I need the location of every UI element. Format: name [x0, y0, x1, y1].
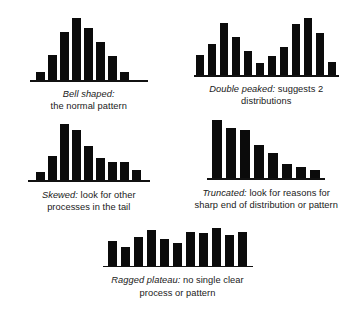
histogram-patterns-figure: Bell shaped: the normal pattern Double p… [0, 0, 355, 333]
caption-double-peaked: Double peaked: suggests 2 distributions [209, 83, 323, 108]
histogram-bar [84, 28, 93, 80]
baseline-bell-shaped [30, 80, 148, 82]
panel-ragged-plateau: Ragged plateau: no single clear process … [0, 214, 355, 299]
histogram-bar [121, 247, 130, 266]
histogram-bar [268, 153, 278, 178]
histogram-bar [196, 55, 204, 75]
histogram-bar [238, 232, 247, 266]
histogram-bar [147, 230, 156, 266]
caption-ragged-plateau: Ragged plateau: no single clear process … [111, 274, 243, 299]
histogram-truncated [212, 120, 320, 178]
caption-rest: look for reasons for [247, 188, 330, 198]
histogram-bar [282, 164, 292, 178]
histogram-bar [220, 23, 228, 75]
figure-row-3: Ragged plateau: no single clear process … [0, 214, 355, 299]
baseline-skewed [28, 180, 150, 182]
histogram-bar [84, 146, 93, 180]
caption-rest: look for other [78, 190, 136, 200]
caption-skewed: Skewed: look for other processes in the … [42, 189, 136, 214]
histogram-bar [108, 162, 117, 180]
histogram-bar [134, 237, 143, 266]
histogram-bar [292, 24, 300, 75]
figure-row-1: Bell shaped: the normal pattern Double p… [0, 0, 355, 112]
caption-term: Ragged plateau: [111, 275, 180, 285]
caption-rest: suggests 2 [275, 84, 323, 94]
histogram-bar [328, 62, 336, 75]
histogram-bar [108, 56, 117, 80]
histogram-bar [120, 162, 129, 180]
histogram-bar [36, 72, 45, 80]
histogram-bar [48, 55, 57, 80]
panel-skewed: Skewed: look for other processes in the … [0, 112, 178, 213]
caption-line-2: sharp end of distribution or pattern [195, 199, 338, 211]
caption-line-1: Truncated: look for reasons for [195, 187, 338, 199]
caption-truncated: Truncated: look for reasons for sharp en… [195, 187, 338, 212]
histogram-skewed [36, 124, 141, 180]
histogram-bell-shaped [36, 18, 141, 80]
caption-term: Truncated: [203, 188, 247, 198]
histogram-double-peaked [196, 18, 336, 75]
histogram-bar [240, 130, 250, 178]
histogram-bar [173, 243, 182, 266]
baseline-double-peaked [194, 75, 339, 77]
histogram-bar [268, 56, 276, 75]
histogram-bar [226, 128, 236, 178]
histogram-bar [296, 167, 306, 178]
histogram-bar [60, 124, 69, 180]
histogram-bar [304, 18, 312, 75]
histogram-bar [36, 172, 45, 180]
histogram-bar [186, 232, 195, 266]
caption-term: Skewed: [42, 190, 78, 200]
caption-line-2: the normal pattern [51, 100, 127, 112]
histogram-bar [212, 120, 222, 178]
histogram-bar [96, 158, 105, 180]
histogram-bar [232, 37, 240, 75]
caption-term: Bell shaped: [63, 89, 115, 99]
panel-bell-shaped: Bell shaped: the normal pattern [0, 0, 178, 112]
histogram-bar [96, 42, 105, 80]
histogram-bar [212, 228, 221, 266]
histogram-bar [132, 170, 141, 180]
histogram-ragged-plateau [108, 228, 247, 266]
histogram-bar [316, 33, 324, 75]
histogram-bar [72, 18, 81, 80]
panel-truncated: Truncated: look for reasons for sharp en… [178, 112, 355, 213]
caption-line-2: distributions [209, 95, 323, 107]
baseline-ragged-plateau [103, 266, 253, 268]
histogram-bar [160, 239, 169, 266]
caption-bell-shaped: Bell shaped: the normal pattern [51, 88, 127, 113]
histogram-bar [72, 130, 81, 180]
histogram-bar [256, 63, 264, 75]
histogram-bar [225, 235, 234, 266]
figure-row-2: Skewed: look for other processes in the … [0, 112, 355, 213]
histogram-bar [254, 145, 264, 178]
histogram-bar [48, 156, 57, 180]
histogram-bar [310, 170, 320, 178]
histogram-bar [244, 51, 252, 75]
caption-line-2: process or pattern [111, 287, 243, 299]
histogram-bar [280, 47, 288, 75]
caption-line-1: Double peaked: suggests 2 [209, 83, 323, 95]
caption-line-1: Ragged plateau: no single clear [111, 274, 243, 286]
caption-line-1: Skewed: look for other [42, 189, 136, 201]
histogram-bar [208, 44, 216, 75]
histogram-bar [120, 72, 129, 80]
caption-rest: no single clear [180, 275, 243, 285]
panel-double-peaked: Double peaked: suggests 2 distributions [178, 0, 355, 112]
caption-line-1: Bell shaped: [51, 88, 127, 100]
baseline-truncated [207, 178, 325, 180]
histogram-bar [108, 241, 117, 266]
histogram-bar [60, 32, 69, 80]
caption-line-2: processes in the tail [42, 201, 136, 213]
caption-term: Double peaked: [209, 84, 275, 94]
histogram-bar [199, 233, 208, 266]
